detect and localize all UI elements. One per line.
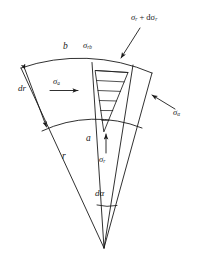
label-sigma-rb-sub: rb <box>87 44 92 50</box>
label-inner-radius-a: a <box>86 134 91 144</box>
d-alpha-arc <box>97 205 117 206</box>
label-sigma-alpha-sub: α <box>177 111 180 117</box>
label-sigma-r-plus-d-sigma-r: σr + dσr <box>131 13 157 22</box>
dr-dimension-line <box>25 70 47 128</box>
label-radius-r: r <box>62 152 66 162</box>
label-outer-radius-b: b <box>63 42 68 52</box>
sigma-r-plus-dsigma-r-leader <box>121 28 140 58</box>
label-sigma-alpha: σα <box>173 108 180 117</box>
inner-arc-a <box>42 119 142 131</box>
label-sigma-a-sub: a <box>57 80 60 86</box>
label-sigma-r-plus-d-sigma-r-mid: + dσ <box>137 12 155 22</box>
label-sigma-r-sub: r <box>103 158 105 164</box>
label-sigma-r-plus-d-sigma-r-sub2: r <box>155 16 157 22</box>
label-d-alpha: dα <box>95 189 104 198</box>
label-sigma-rb: σrb <box>83 41 92 50</box>
label-sigma-a: σa <box>53 77 60 86</box>
label-dr: dr <box>18 84 26 93</box>
cylinder-sector-stress-diagram <box>0 0 200 264</box>
sigma-alpha-leader <box>152 95 175 109</box>
label-sigma-r: σr <box>99 155 105 164</box>
